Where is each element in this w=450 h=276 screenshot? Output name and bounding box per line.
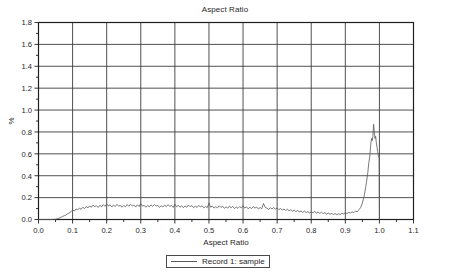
- plot-background: [39, 23, 414, 220]
- y-axis-tick-label: 1.2: [21, 84, 32, 93]
- y-axis-tick-label: 1.4: [21, 62, 32, 71]
- x-axis-tick-label: 1.1: [408, 226, 419, 235]
- x-axis-tick-label: 0.0: [33, 226, 44, 235]
- x-axis-title: Aspect Ratio: [203, 238, 249, 247]
- x-axis-tick-label: 0.2: [101, 226, 112, 235]
- y-axis-tick-label: 0.2: [21, 193, 32, 202]
- x-axis-tick-label: 0.4: [170, 226, 181, 235]
- y-axis-tick-label: 1.6: [21, 40, 32, 49]
- y-axis-tick-label: 0.4: [21, 172, 32, 181]
- x-axis-tick-label: 0.3: [135, 226, 146, 235]
- y-axis-tick-label: 1.8: [21, 18, 32, 27]
- x-axis-tick-label: 1.0: [374, 226, 385, 235]
- y-axis-tick-label: 1.0: [21, 106, 32, 115]
- y-axis-tick-label: 0.0: [21, 215, 32, 224]
- chart-legend: Record 1: sample: [166, 255, 270, 268]
- x-axis-tick-label: 0.8: [306, 226, 317, 235]
- chart-container: Aspect Ratio 0.00.10.20.30.40.50.60.70.8…: [0, 0, 450, 276]
- x-axis-tick-label: 0.9: [340, 226, 351, 235]
- x-axis-tick-label: 0.7: [272, 226, 283, 235]
- x-axis-tick-label: 0.5: [204, 226, 215, 235]
- x-axis-tick-label: 0.6: [238, 226, 249, 235]
- y-axis-tick-label: 0.6: [21, 150, 32, 159]
- chart-plot-svg: 0.00.10.20.30.40.50.60.70.80.91.01.10.00…: [0, 0, 450, 276]
- y-axis-title: %: [7, 117, 16, 124]
- y-axis-tick-label: 0.8: [21, 128, 32, 137]
- legend-line-swatch: [171, 261, 197, 262]
- x-axis-tick-label: 0.1: [67, 226, 78, 235]
- legend-label-record-1: Record 1: sample: [202, 258, 265, 266]
